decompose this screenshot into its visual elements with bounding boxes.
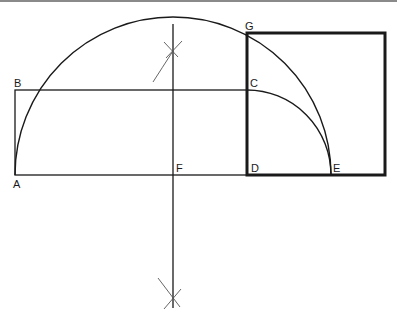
point-label-a: A xyxy=(13,179,20,190)
quarter-arc-ce xyxy=(247,90,331,175)
upper-arc-mark-2 xyxy=(166,41,182,58)
point-label-d: D xyxy=(251,163,259,174)
point-label-e: E xyxy=(333,163,340,174)
point-label-f: F xyxy=(176,163,183,174)
rectangle-abcd xyxy=(15,90,247,175)
point-label-g: G xyxy=(245,21,254,32)
point-label-b: B xyxy=(14,78,21,89)
upper-construction-arc xyxy=(153,51,173,82)
point-label-c: C xyxy=(250,78,258,89)
square-defg xyxy=(247,33,385,175)
